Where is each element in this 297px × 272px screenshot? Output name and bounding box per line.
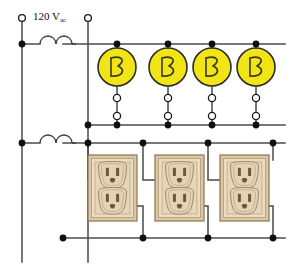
receptacle-3-hot-lead <box>208 143 220 180</box>
lamp-2[interactable] <box>149 48 187 86</box>
junction-node <box>19 41 26 48</box>
lamp-3[interactable] <box>193 48 231 86</box>
source-terminal-right[interactable] <box>85 15 92 22</box>
junction-node <box>140 140 147 147</box>
receptacle-2[interactable] <box>155 155 204 221</box>
junction-node <box>209 122 216 129</box>
lamp-layer <box>98 48 275 86</box>
lamp-4-terminal-upper[interactable] <box>252 94 259 101</box>
junction-node <box>114 122 121 129</box>
coil-layer <box>40 36 76 143</box>
lamp-4[interactable] <box>237 48 275 86</box>
lamp-3-terminal-upper[interactable] <box>208 94 215 101</box>
junction-node <box>253 41 260 48</box>
receptacle-3[interactable] <box>220 155 269 221</box>
junction-node <box>140 235 147 242</box>
receptacle-1[interactable] <box>88 155 137 221</box>
junction-node <box>253 122 260 129</box>
source-voltage-label: 120 Vac <box>33 11 66 22</box>
lamp-1-terminal-lower[interactable] <box>113 112 120 119</box>
junction-node <box>114 41 121 48</box>
junction-node <box>165 41 172 48</box>
junction-node <box>60 235 67 242</box>
source-voltage-value: 120 V <box>33 10 60 22</box>
junction-node <box>270 140 277 147</box>
upper-transformer-coil-symbol <box>40 36 76 44</box>
junction-node <box>205 235 212 242</box>
junction-node <box>85 140 92 147</box>
lamp-1-terminal-upper[interactable] <box>113 94 120 101</box>
receptacle-2-hot-lead <box>143 143 155 180</box>
receptacle-layer <box>88 155 269 221</box>
lamp-2-terminal-upper[interactable] <box>164 94 171 101</box>
schematic-canvas <box>0 0 297 272</box>
junction-node <box>270 235 277 242</box>
junction-node <box>19 140 26 147</box>
junction-node <box>209 41 216 48</box>
lamp-2-terminal-lower[interactable] <box>164 112 171 119</box>
source-voltage-subscript: ac <box>60 16 66 24</box>
lamp-4-terminal-lower[interactable] <box>252 112 259 119</box>
source-terminal-left[interactable] <box>19 15 26 22</box>
lamp-1[interactable] <box>98 48 136 86</box>
circuit-diagram: 120 Vac <box>0 0 297 272</box>
lower-transformer-coil-symbol <box>40 135 76 143</box>
junction-node <box>85 122 92 129</box>
junction-node <box>205 140 212 147</box>
junction-node <box>165 122 172 129</box>
lamp-3-terminal-lower[interactable] <box>208 112 215 119</box>
